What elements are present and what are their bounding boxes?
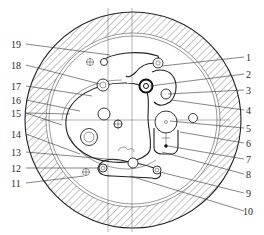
callout-13: 13 [11,147,21,158]
callout-7: 7 [246,154,251,165]
callout-17: 17 [11,81,21,92]
callout-9: 9 [246,188,251,199]
callout-6: 6 [246,138,251,149]
callout-18: 18 [11,60,21,71]
callout-15: 15 [11,108,21,119]
callout-8: 8 [246,169,251,180]
callout-4: 4 [246,105,251,116]
callout-labels-left: 19 18 17 16 15 14 13 12 11 [11,39,21,189]
callout-5: 5 [246,123,251,134]
callout-1: 1 [246,52,251,63]
callout-19: 19 [11,39,21,50]
callout-3: 3 [246,85,251,96]
callout-16: 16 [11,95,21,106]
callout-12: 12 [11,163,21,174]
callout-2: 2 [246,69,251,80]
mechanism-cross-section-diagram: 19 18 17 16 15 14 13 12 11 1 2 3 4 5 6 7… [0,0,264,235]
callout-14: 14 [11,129,21,140]
callout-11: 11 [11,178,21,189]
callout-10: 10 [243,206,253,217]
